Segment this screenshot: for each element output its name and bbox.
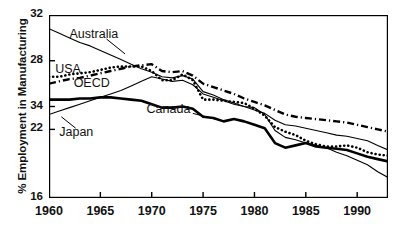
x-tick-3: 1975 xyxy=(181,204,225,218)
y-tick-4: 16 xyxy=(17,190,43,202)
y-tick-1: 28 xyxy=(17,53,43,65)
y-tick-2: 34 xyxy=(17,99,43,111)
leader-line-australia xyxy=(107,39,125,54)
series-label-usa: USA xyxy=(55,62,81,76)
series-label-canada: Canada xyxy=(147,102,191,116)
x-tick-5: 1985 xyxy=(284,204,328,218)
series-line-australia xyxy=(49,29,388,178)
series-label-australia: Australia xyxy=(70,27,119,41)
plot-area xyxy=(49,15,388,198)
y-tick-3: 22 xyxy=(17,121,43,133)
chart-figure: % Employment in Manufacturing 32 28 34 2… xyxy=(0,0,405,237)
x-tick-4: 1980 xyxy=(232,204,276,218)
x-tick-2: 1970 xyxy=(130,204,174,218)
plot-frame xyxy=(50,16,388,198)
leader-line-canada xyxy=(193,113,216,119)
series-label-japan: Japan xyxy=(59,125,93,139)
x-tick-0: 1960 xyxy=(27,204,71,218)
x-tick-6: 1990 xyxy=(335,204,379,218)
y-tick-0: 32 xyxy=(17,7,43,19)
x-tick-1: 1965 xyxy=(78,204,122,218)
series-canvas xyxy=(49,15,388,198)
series-line-canada xyxy=(49,97,388,161)
series-label-oecd: OECD xyxy=(74,76,110,90)
